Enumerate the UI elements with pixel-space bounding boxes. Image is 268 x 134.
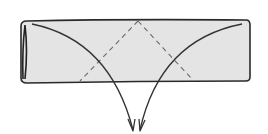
paper-strip [21, 20, 250, 83]
diagram-svg [0, 0, 268, 134]
folding-diagram: Rolled paper strip with two diagonal das… [0, 0, 268, 134]
